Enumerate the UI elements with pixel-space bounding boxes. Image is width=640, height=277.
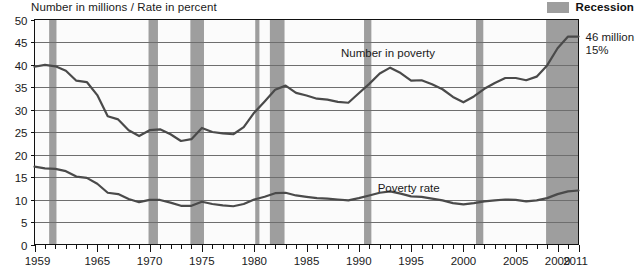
x-axis-ticks bbox=[36, 245, 580, 252]
x-axis-labels: 1959196519701975198019851990199520002005… bbox=[25, 255, 588, 267]
series-label-poverty-rate: Poverty rate bbox=[378, 182, 440, 194]
x-axis-tick-label: 1995 bbox=[398, 255, 424, 267]
y-axis-labels: 05101520253035404550 bbox=[15, 15, 28, 252]
x-axis-tick-label: 1970 bbox=[137, 255, 163, 267]
plot-area: 05101520253035404550 1959196519701975198… bbox=[0, 0, 640, 277]
y-axis-tick-label: 45 bbox=[15, 37, 28, 49]
y-axis-tick-label: 5 bbox=[21, 217, 27, 229]
y-axis-tick-label: 35 bbox=[15, 82, 28, 94]
y-axis-tick-label: 50 bbox=[15, 15, 28, 27]
y-axis-tick-label: 0 bbox=[21, 240, 27, 252]
x-axis-tick-label: 1990 bbox=[346, 255, 372, 267]
x-axis-tick-label: 2011 bbox=[563, 255, 588, 267]
y-axis-tick-label: 30 bbox=[15, 105, 28, 117]
x-axis-tick-label: 1975 bbox=[189, 255, 215, 267]
x-axis-tick-label: 1965 bbox=[84, 255, 110, 267]
x-axis-tick-label: 1985 bbox=[294, 255, 320, 267]
chart-svg: 05101520253035404550 1959196519701975198… bbox=[0, 0, 640, 277]
x-axis-tick-label: 2000 bbox=[451, 255, 477, 267]
x-axis-tick-label: 1959 bbox=[25, 255, 51, 267]
y-axis-tick-label: 15 bbox=[15, 172, 28, 184]
callout-poverty-rate: 15% bbox=[586, 44, 609, 56]
x-axis-tick-label: 1980 bbox=[241, 255, 267, 267]
series-label-number-in-poverty: Number in poverty bbox=[341, 47, 435, 59]
y-axis-tick-label: 20 bbox=[15, 150, 28, 162]
callout-number-in-poverty: 46 million bbox=[586, 31, 635, 43]
poverty-chart-figure: Number in millions / Rate in percent Rec… bbox=[0, 0, 640, 277]
x-axis-tick-label: 2005 bbox=[503, 255, 529, 267]
y-axis-tick-label: 10 bbox=[15, 195, 28, 207]
y-axis-tick-label: 25 bbox=[15, 127, 28, 139]
y-axis-tick-label: 40 bbox=[15, 60, 28, 72]
